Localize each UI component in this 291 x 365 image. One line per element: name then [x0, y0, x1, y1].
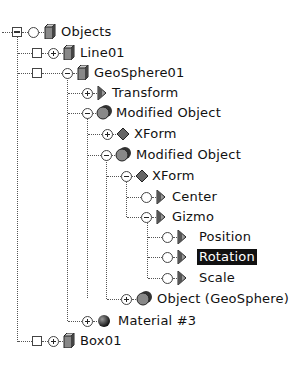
tree-line	[107, 176, 121, 177]
tree-line	[148, 278, 162, 279]
tree-line	[148, 257, 162, 258]
node-toggle[interactable]	[32, 68, 42, 78]
tree-line	[107, 299, 121, 300]
controller-icon	[156, 190, 166, 204]
controller-icon	[97, 86, 107, 100]
tree-line	[68, 113, 82, 114]
expand-icon[interactable]	[48, 48, 59, 59]
collapse-icon[interactable]	[141, 212, 152, 223]
cube-icon	[77, 65, 89, 80]
tree-line	[87, 118, 88, 298]
tree-node-label[interactable]: XForm	[134, 126, 177, 142]
collapse-icon[interactable]	[101, 150, 112, 161]
sphere-stack-icon	[115, 146, 131, 162]
tree-line	[88, 155, 101, 156]
tree-line	[148, 237, 162, 238]
node-toggle[interactable]	[28, 27, 39, 38]
node-toggle[interactable]	[162, 232, 173, 243]
tree-line	[106, 160, 107, 299]
collapse-icon[interactable]	[121, 171, 132, 182]
expand-icon[interactable]	[48, 336, 59, 347]
tree-node-label[interactable]: Position	[199, 229, 251, 245]
tree-node-label-selected[interactable]: Rotation	[197, 249, 257, 265]
controller-icon	[177, 230, 187, 244]
node-toggle[interactable]	[162, 252, 173, 263]
tree-line	[88, 134, 102, 135]
tree-line	[147, 221, 148, 278]
tree-node-label[interactable]: Transform	[112, 85, 178, 101]
tree-line	[18, 341, 32, 342]
expand-icon[interactable]	[121, 294, 132, 305]
tree-line	[68, 321, 82, 322]
expand-collapse-toggle[interactable]	[12, 27, 22, 37]
material-sphere-icon	[97, 314, 111, 328]
cube-icon	[63, 333, 75, 348]
track-view-hierarchy-tree: Objects Line01 GeoSphere01 Transform Mod…	[0, 0, 291, 365]
node-toggle[interactable]	[141, 192, 152, 203]
collapse-icon[interactable]	[82, 108, 93, 119]
tree-node-label[interactable]: XForm	[152, 168, 195, 184]
controller-icon	[177, 271, 187, 285]
cube-icon	[63, 45, 75, 60]
tree-line	[17, 37, 18, 342]
tree-line	[127, 217, 141, 218]
tree-node-label[interactable]: Objects	[61, 24, 112, 40]
tree-node-label[interactable]: Box01	[80, 333, 122, 349]
sphere-stack-icon	[96, 104, 112, 120]
tree-node-label[interactable]: GeoSphere01	[94, 65, 185, 81]
node-toggle[interactable]	[32, 336, 42, 346]
tree-node-label[interactable]: Modified Object	[116, 105, 221, 121]
tree-line	[68, 93, 82, 94]
controller-icon	[177, 250, 187, 264]
tree-node-label[interactable]: Material #3	[118, 313, 196, 329]
sphere-stack-icon	[136, 290, 152, 306]
cube-icon	[44, 24, 56, 39]
tree-node-label[interactable]: Object (GeoSphere)	[157, 291, 289, 307]
tree-line	[67, 78, 68, 321]
expand-icon[interactable]	[82, 316, 93, 327]
collapse-icon[interactable]	[62, 68, 73, 79]
tree-line	[42, 73, 62, 74]
tree-line	[126, 180, 127, 217]
tree-node-label[interactable]: Center	[172, 189, 217, 205]
tree-line	[18, 53, 32, 54]
tree-node-label[interactable]: Scale	[199, 270, 235, 286]
modifier-diamond-icon	[135, 169, 149, 183]
tree-line	[18, 73, 32, 74]
tree-node-label[interactable]: Modified Object	[136, 147, 241, 163]
tree-node-label[interactable]: Gizmo	[172, 209, 214, 225]
node-toggle[interactable]	[32, 48, 42, 58]
controller-icon	[156, 210, 166, 224]
node-toggle[interactable]	[162, 273, 173, 284]
expand-icon[interactable]	[102, 129, 113, 140]
expand-icon[interactable]	[82, 88, 93, 99]
tree-line	[127, 197, 141, 198]
modifier-diamond-icon	[116, 127, 130, 141]
tree-node-label[interactable]: Line01	[80, 45, 125, 61]
tree-line	[2, 32, 12, 33]
